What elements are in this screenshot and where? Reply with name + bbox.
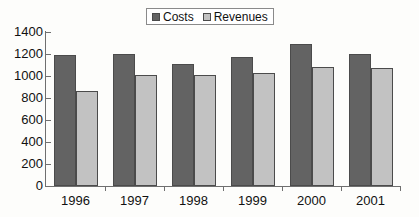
y-axis-tick-mark [46,186,51,187]
bar-costs-1998 [172,64,194,186]
x-axis-tick-mark [223,186,224,191]
bar-group [46,32,105,186]
y-axis-tick-label: 400 [21,134,43,149]
bar-costs-1999 [231,57,253,186]
chart-legend: Costs Revenues [146,8,274,25]
bar-revenues-1999 [253,73,275,186]
y-axis-tick-label: 800 [21,90,43,105]
bar-revenues-1997 [135,75,157,186]
bar-revenues-1996 [76,91,98,186]
bar-revenues-2000 [312,67,334,186]
x-axis-category-label: 1997 [105,193,164,208]
x-axis-tick-mark [105,186,106,191]
bar-costs-2001 [349,54,371,186]
legend-label-revenues: Revenues [214,11,268,23]
legend-entry-costs: Costs [152,11,194,23]
legend-entry-revenues: Revenues [203,11,268,23]
legend-swatch-costs [152,13,160,21]
x-axis-category-label: 1996 [46,193,105,208]
bar-revenues-1998 [194,75,216,186]
plot-area [46,32,400,186]
bar-group [164,32,223,186]
x-axis-category-label: 1998 [164,193,223,208]
y-axis-tick-label: 0 [36,178,43,193]
bar-group [341,32,400,186]
bar-group [282,32,341,186]
legend-swatch-revenues [203,13,211,21]
y-axis-tick-label: 1400 [14,24,43,39]
x-axis-category-label: 1999 [223,193,282,208]
bar-chart: Costs Revenues 0200400600800100012001400… [0,0,419,217]
bar-costs-2000 [290,44,312,186]
bar-revenues-2001 [371,68,393,186]
x-axis-category-label: 2001 [341,193,400,208]
bar-group [223,32,282,186]
y-axis-tick-label: 600 [21,112,43,127]
legend-label-costs: Costs [163,11,194,23]
bar-costs-1997 [113,54,135,186]
y-axis-tick-label: 1000 [14,68,43,83]
x-axis-tick-mark [341,186,342,191]
x-axis-tick-mark [400,186,401,191]
bar-group [105,32,164,186]
x-axis-category-label: 2000 [282,193,341,208]
y-axis-tick-label: 1200 [14,46,43,61]
bar-costs-1996 [54,55,76,186]
x-axis-tick-mark [282,186,283,191]
x-axis-tick-mark [164,186,165,191]
y-axis-tick-label: 200 [21,156,43,171]
